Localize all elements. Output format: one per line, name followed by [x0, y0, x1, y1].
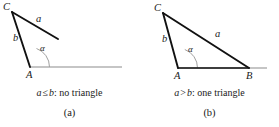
caption-a-separator: : — [54, 87, 57, 98]
side-label-a-b: a — [215, 29, 220, 40]
caption-b-separator: : — [192, 87, 195, 98]
caption-a-conclusion: no triangle — [59, 87, 102, 98]
caption-b-conclusion: one triangle — [197, 87, 244, 98]
vertex-label-c-b: C — [154, 3, 161, 14]
vertex-label-c-a: C — [3, 2, 10, 13]
ssa-ambiguous-case-figure: C A b a α a≤b: no triangle (a) C A B b a — [0, 0, 279, 127]
angle-label-alpha-b: α — [188, 45, 193, 54]
caption-b-relation: > — [179, 87, 187, 98]
angle-label-alpha-a: α — [40, 44, 45, 53]
vertex-label-a-a: A — [26, 70, 32, 81]
panel-letter-a: (a) — [0, 108, 139, 119]
caption-a-relation: ≤ — [42, 87, 50, 98]
vertex-label-a-b: A — [174, 71, 180, 82]
panel-letter-b: (b) — [140, 108, 279, 119]
caption-condition-b: a>b: one triangle — [140, 88, 279, 98]
panel-b: C A B b a α a>b: one triangle (b) — [140, 0, 279, 127]
side-label-a-a: a — [36, 14, 41, 25]
caption-a-left: a — [37, 87, 42, 98]
panel-a: C A b a α a≤b: no triangle (a) — [0, 0, 139, 127]
panel-a-drawing — [0, 0, 139, 85]
side-label-b-b: b — [162, 34, 167, 45]
caption-condition-a: a≤b: no triangle — [0, 88, 139, 98]
vertex-label-b-b: B — [246, 71, 252, 82]
side-label-b-a: b — [13, 33, 18, 44]
